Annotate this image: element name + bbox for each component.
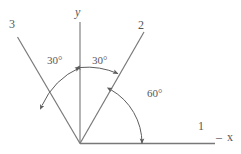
angle-label-60: 60°	[147, 88, 162, 99]
angle-arc-60	[111, 90, 142, 144]
ray-3-label: 3	[9, 18, 15, 30]
ray-3-line	[18, 37, 81, 144]
x-axis-label: – x	[216, 131, 234, 143]
ray-2-label: 2	[138, 19, 144, 31]
diagram-canvas	[0, 0, 241, 154]
ray-2-line	[80, 32, 144, 144]
angle-arc-left-30	[42, 68, 80, 106]
ray-1-label: 1	[198, 120, 204, 132]
angle-arc-right-30	[80, 67, 118, 74]
y-axis-label: y	[75, 6, 80, 18]
angle-diagram-figure: 3 2 1 y – x 30° 30° 60°	[0, 0, 241, 154]
angle-label-left-30: 30°	[47, 55, 62, 66]
angle-label-right-30: 30°	[92, 55, 107, 66]
